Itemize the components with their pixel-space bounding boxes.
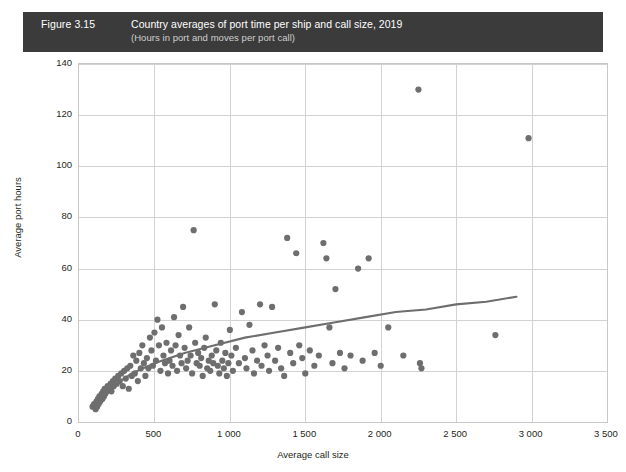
y-tick-label: 100 xyxy=(20,160,72,170)
data-point xyxy=(172,342,178,348)
figure-page: Figure 3.15 Country averages of port tim… xyxy=(0,0,626,472)
data-point xyxy=(225,360,231,366)
data-point xyxy=(418,365,424,371)
data-point xyxy=(236,360,242,366)
data-point xyxy=(222,350,228,356)
data-point xyxy=(182,345,188,351)
data-point xyxy=(284,235,290,241)
data-point xyxy=(156,342,162,348)
data-point xyxy=(316,352,322,358)
data-point xyxy=(525,135,531,141)
data-point xyxy=(203,335,209,341)
data-point xyxy=(127,363,133,369)
data-point xyxy=(385,324,391,330)
y-tick-label: 20 xyxy=(20,365,72,375)
data-point xyxy=(347,352,353,358)
data-point xyxy=(221,365,227,371)
data-point xyxy=(269,304,275,310)
data-point xyxy=(227,327,233,333)
data-point xyxy=(151,329,157,335)
y-tick-label: 80 xyxy=(20,211,72,221)
data-point xyxy=(148,347,154,353)
data-point xyxy=(224,373,230,379)
y-tick-label: 120 xyxy=(20,109,72,119)
data-point xyxy=(233,345,239,351)
data-point xyxy=(239,309,245,315)
trend-line xyxy=(93,297,517,407)
data-point xyxy=(242,355,248,361)
data-point xyxy=(135,378,141,384)
data-point xyxy=(160,352,166,358)
data-point xyxy=(246,322,252,328)
data-point xyxy=(215,363,221,369)
data-point xyxy=(293,250,299,256)
data-point xyxy=(219,358,225,364)
data-point xyxy=(200,373,206,379)
x-tick-label: 1 000 xyxy=(194,429,264,439)
scatter-plot-svg xyxy=(79,64,607,422)
data-point xyxy=(171,314,177,320)
data-point xyxy=(228,352,234,358)
data-point xyxy=(249,347,255,353)
data-point xyxy=(372,350,378,356)
x-tick-label: 500 xyxy=(118,429,188,439)
data-point xyxy=(126,386,132,392)
data-point xyxy=(139,342,145,348)
figure-title-banner: Figure 3.15 Country averages of port tim… xyxy=(23,12,603,52)
data-point xyxy=(120,383,126,389)
x-tick-label: 2 500 xyxy=(420,429,490,439)
plot-area xyxy=(78,63,608,423)
data-point xyxy=(180,304,186,310)
data-point xyxy=(264,352,270,358)
data-point xyxy=(329,360,335,366)
data-point xyxy=(133,358,139,364)
data-point xyxy=(183,365,189,371)
data-point xyxy=(378,363,384,369)
x-tick-label: 2 000 xyxy=(345,429,415,439)
data-point xyxy=(258,363,264,369)
data-point xyxy=(178,360,184,366)
data-point xyxy=(296,342,302,348)
data-point xyxy=(198,355,204,361)
data-point xyxy=(266,368,272,374)
data-point xyxy=(159,324,165,330)
data-point xyxy=(302,370,308,376)
data-point xyxy=(207,368,213,374)
data-point xyxy=(186,324,192,330)
data-point xyxy=(147,335,153,341)
x-tick-label: 0 xyxy=(43,429,113,439)
data-point xyxy=(157,368,163,374)
data-point xyxy=(251,370,257,376)
data-point xyxy=(492,332,498,338)
data-point xyxy=(136,350,142,356)
data-point xyxy=(175,332,181,338)
data-point xyxy=(191,227,197,233)
data-point xyxy=(360,358,366,364)
data-point xyxy=(169,363,175,369)
title-text-block: Country averages of port time per ship a… xyxy=(131,17,402,45)
data-point xyxy=(415,86,421,92)
data-point xyxy=(213,347,219,353)
y-tick-label: 60 xyxy=(20,263,72,273)
data-point xyxy=(168,347,174,353)
data-point xyxy=(174,368,180,374)
data-point xyxy=(165,370,171,376)
data-point xyxy=(212,301,218,307)
data-point xyxy=(320,240,326,246)
y-tick-label: 0 xyxy=(20,416,72,426)
data-point xyxy=(278,365,284,371)
data-point xyxy=(254,358,260,364)
x-tick-label: 3 500 xyxy=(571,429,626,439)
x-tick-label: 3 000 xyxy=(496,429,566,439)
data-point xyxy=(337,350,343,356)
data-point xyxy=(400,352,406,358)
data-point xyxy=(197,363,203,369)
data-point xyxy=(154,317,160,323)
data-point xyxy=(281,373,287,379)
data-point xyxy=(355,265,361,271)
data-point xyxy=(261,342,267,348)
data-point xyxy=(142,373,148,379)
y-tick-label: 140 xyxy=(20,58,72,68)
y-tick-label: 40 xyxy=(20,314,72,324)
data-point xyxy=(188,352,194,358)
